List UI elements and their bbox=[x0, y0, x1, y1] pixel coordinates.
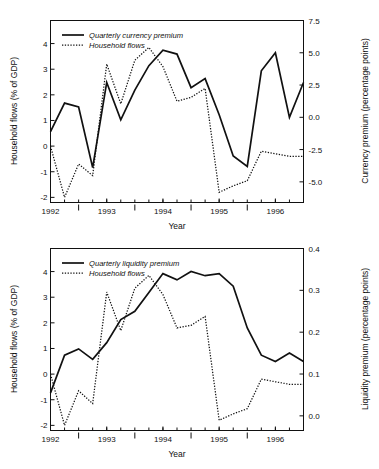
x-axis-title-bottom: Year bbox=[168, 449, 185, 459]
currency-premium-chart: 1992199319941995199643210-1-27.55.02.50.… bbox=[0, 0, 379, 234]
y-tick-label-left: -1 bbox=[40, 396, 48, 405]
y-tick-label-left: -1 bbox=[40, 168, 48, 177]
x-tick-label: 1992 bbox=[42, 435, 60, 444]
y-tick-label-right: 0.4 bbox=[309, 245, 321, 254]
x-tick-label: 1993 bbox=[98, 435, 116, 444]
series-line-solid bbox=[51, 272, 304, 393]
y-tick-label-left: 1 bbox=[43, 116, 48, 125]
y-tick-label-right: 0.2 bbox=[309, 328, 321, 337]
legend-top: Quarterly currency premium Household flo… bbox=[62, 31, 183, 50]
x-tick-label: 1994 bbox=[154, 207, 172, 216]
series-line-dotted bbox=[51, 47, 304, 197]
y-tick-label-right: 7.5 bbox=[309, 17, 321, 26]
y-tick-label-right: -5.0 bbox=[309, 178, 323, 187]
y-tick-label-left: 4 bbox=[43, 268, 48, 277]
left-axis-title-top: Household flows (% of GDP) bbox=[9, 57, 19, 165]
series-line-dotted bbox=[51, 275, 304, 425]
axis-labels-top: 1992199319941995199643210-1-27.55.02.50.… bbox=[40, 17, 322, 216]
figure-root: 1992199319941995199643210-1-27.55.02.50.… bbox=[0, 0, 379, 469]
x-tick-label: 1992 bbox=[42, 207, 60, 216]
y-tick-label-left: -2 bbox=[40, 421, 48, 430]
x-tick-label: 1995 bbox=[210, 435, 228, 444]
y-tick-label-right: 0.0 bbox=[309, 412, 321, 421]
legend-label-solid-top: Quarterly currency premium bbox=[89, 31, 183, 40]
y-tick-label-right: -2.5 bbox=[309, 146, 323, 155]
y-tick-label-right: 0.0 bbox=[309, 113, 321, 122]
y-tick-label-left: 0 bbox=[43, 142, 48, 151]
legend-label-dotted-bottom: Household flows bbox=[89, 269, 145, 278]
legend-label-solid-bottom: Quarterly liquidity premium bbox=[89, 259, 179, 268]
liquidity-premium-panel: 1992199319941995199643210-1-20.40.30.20.… bbox=[0, 235, 379, 469]
x-tick-label: 1996 bbox=[266, 207, 284, 216]
legend-label-dotted-top: Household flows bbox=[89, 41, 145, 50]
y-tick-label-left: 2 bbox=[43, 91, 48, 100]
y-tick-label-right: 5.0 bbox=[309, 49, 321, 58]
x-tick-label: 1994 bbox=[154, 435, 172, 444]
y-tick-label-left: 1 bbox=[43, 344, 48, 353]
x-tick-label: 1996 bbox=[266, 435, 284, 444]
y-tick-label-left: 0 bbox=[43, 370, 48, 379]
right-axis-title-top: Currency premium (percentage points) bbox=[360, 38, 370, 184]
series-group-top bbox=[51, 47, 304, 197]
series-group-bottom bbox=[51, 272, 304, 426]
y-tick-label-right: 0.3 bbox=[309, 286, 321, 295]
liquidity-premium-chart: 1992199319941995199643210-1-20.40.30.20.… bbox=[0, 235, 379, 469]
y-tick-label-left: 3 bbox=[43, 65, 48, 74]
y-tick-label-left: 3 bbox=[43, 293, 48, 302]
y-tick-label-right: 0.1 bbox=[309, 370, 321, 379]
y-tick-label-left: -2 bbox=[40, 193, 48, 202]
y-tick-label-left: 2 bbox=[43, 319, 48, 328]
x-axis-title-top: Year bbox=[168, 221, 185, 231]
right-axis-title-bottom: Liquidity premium (percentage points) bbox=[360, 268, 370, 410]
y-tick-label-left: 4 bbox=[43, 40, 48, 49]
currency-premium-panel: 1992199319941995199643210-1-27.55.02.50.… bbox=[0, 0, 379, 234]
y-tick-label-right: 2.5 bbox=[309, 81, 321, 90]
x-tick-label: 1993 bbox=[98, 207, 116, 216]
series-line-solid bbox=[51, 50, 304, 167]
x-tick-label: 1995 bbox=[210, 207, 228, 216]
left-axis-title-bottom: Household flows (% of GDP) bbox=[9, 285, 19, 393]
axis-labels-bottom: 1992199319941995199643210-1-20.40.30.20.… bbox=[40, 245, 320, 444]
